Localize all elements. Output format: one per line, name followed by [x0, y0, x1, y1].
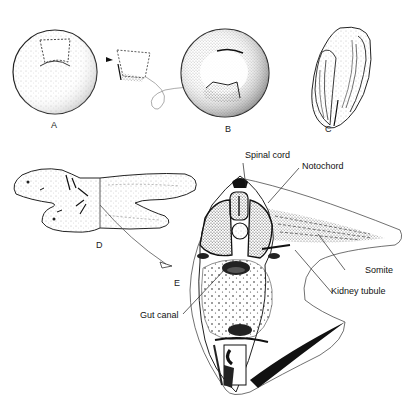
label-notochord: Notochord: [302, 161, 344, 171]
label-kidney-tubule: Kidney tubule: [331, 286, 386, 296]
panel-label-c: C: [325, 124, 332, 134]
arrowhead-icon: [106, 57, 113, 62]
excised-fragment: [117, 50, 150, 82]
panel-label-b: B: [225, 124, 231, 134]
panel-a-embryo: [13, 30, 97, 114]
label-spinal-cord: Spinal cord: [245, 150, 290, 160]
panel-label-d: D: [96, 240, 103, 250]
panel-d-larvae: [14, 169, 196, 232]
label-gut-canal: Gut canal: [140, 310, 179, 320]
panel-label-e: E: [174, 278, 180, 288]
label-somite: Somite: [365, 265, 393, 275]
panel-label-a: A: [51, 120, 57, 130]
embryo-transplant-diagram: [0, 0, 412, 400]
panel-b-embryo: [181, 29, 269, 117]
arrowhead-icon: [160, 262, 172, 268]
panel-c-embryo: [312, 27, 371, 128]
